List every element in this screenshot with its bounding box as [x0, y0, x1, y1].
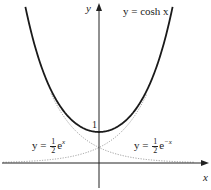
half-exp-x-label: y = 12ex [32, 138, 65, 155]
half-exp-x-curve [3, 94, 147, 163]
half-exp-neg-x-label: y = 12e−x [134, 138, 172, 155]
y-axis-arrow-icon [96, 3, 102, 11]
y-axis-label: y [86, 2, 91, 14]
y-intercept-label: 1 [92, 119, 97, 130]
cosh-curve-label: y = cosh x [123, 5, 169, 17]
x-axis-label: x [203, 171, 208, 183]
x-axis-arrow-icon [201, 160, 209, 166]
chart-canvas [0, 0, 211, 190]
half-exp-neg-x-curve [51, 94, 195, 163]
